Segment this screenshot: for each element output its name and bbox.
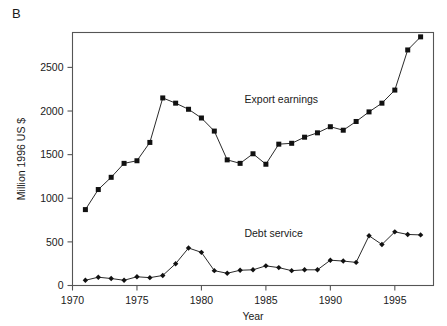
y-tick-label: 1500 [40,148,64,160]
data-point-marker [302,135,307,140]
y-tick-label: 1000 [40,192,64,204]
data-point-marker [96,275,101,280]
data-point-marker [134,158,139,163]
data-point-marker [354,119,359,124]
panel-label: B [12,6,21,21]
data-point-marker [160,95,165,100]
data-point-marker [225,271,230,276]
y-axis-tickmarks [68,67,73,285]
plot-frame [73,33,434,286]
data-point-marker [379,101,384,106]
line-chart: 05001000150020002500 1970197519801985199… [0,0,447,326]
x-tick-label: 1975 [125,294,149,306]
data-point-marker [418,34,423,39]
data-point-marker [147,275,152,280]
x-tick-label: 1990 [319,294,343,306]
data-point-marker [199,115,204,120]
y-axis-title: Million 1996 US $ [15,118,27,200]
data-point-marker [302,267,307,272]
data-point-marker [405,232,410,237]
data-point-marker [237,268,242,273]
series-line [85,37,420,210]
y-axis-tick-labels: 05001000150020002500 [40,61,64,291]
data-point-marker [108,276,113,281]
x-axis-tick-labels: 197019751980198519901995 [61,294,407,306]
data-point-marker [263,162,268,167]
x-tick-label: 1980 [190,294,214,306]
data-point-marker [212,129,217,134]
data-point-marker [276,265,281,270]
data-point-marker [173,101,178,106]
data-point-marker [341,128,346,133]
figure-panel-b: B 05001000150020002500 19701975198019851… [0,0,447,326]
data-point-marker [367,109,372,114]
y-tick-label: 0 [58,279,64,291]
data-point-marker [96,187,101,192]
data-point-marker [289,141,294,146]
x-axis-title: Year [242,310,264,322]
data-point-marker [392,88,397,93]
data-point-marker [238,161,243,166]
data-point-marker [263,263,268,268]
data-point-marker [341,258,346,263]
data-point-marker [251,151,256,156]
y-tick-label: 500 [46,236,64,248]
data-point-marker [418,232,423,237]
data-point-marker [250,267,255,272]
data-point-marker [366,233,371,238]
data-point-marker [147,140,152,145]
series-label-export-earnings: Export earnings [245,93,319,105]
y-tick-label: 2500 [40,61,64,73]
data-point-marker [353,260,358,265]
series-label-debt-service: Debt service [244,227,303,239]
data-point-marker [122,161,127,166]
x-tick-label: 1970 [61,294,85,306]
data-point-marker [315,130,320,135]
data-point-marker [186,107,191,112]
data-point-marker [83,207,88,212]
y-tick-label: 2000 [40,105,64,117]
data-marker-group [83,34,424,283]
data-point-marker [121,278,126,283]
data-point-marker [405,47,410,52]
data-point-marker [289,268,294,273]
data-point-marker [83,278,88,283]
data-point-marker [328,124,333,129]
data-point-marker [225,157,230,162]
series-line [85,232,420,280]
x-tick-label: 1995 [383,294,407,306]
x-tick-label: 1985 [254,294,278,306]
series-annotation-group: Export earningsDebt service [244,93,318,238]
data-point-marker [109,175,114,180]
x-axis-tickmarks [73,286,395,291]
data-point-marker [134,274,139,279]
data-point-marker [276,142,281,147]
